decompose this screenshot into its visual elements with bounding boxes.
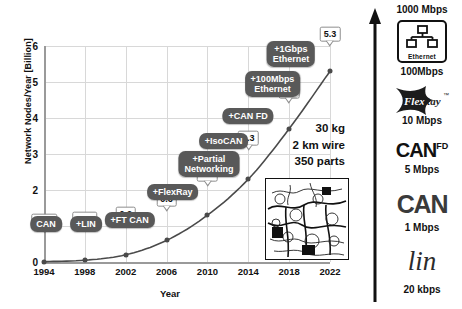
y-tick-label: 6 bbox=[32, 41, 38, 52]
value-stem-inner bbox=[327, 40, 333, 44]
value-stem-inner bbox=[164, 205, 170, 209]
y-tick-label: 2 bbox=[32, 185, 38, 196]
x-tick-label: 2022 bbox=[319, 266, 340, 277]
x-tick-label: 1994 bbox=[33, 266, 54, 277]
x-tick-label: 2014 bbox=[238, 266, 259, 277]
x-tick-label: 2006 bbox=[156, 266, 177, 277]
ethernet-glyph bbox=[405, 25, 439, 49]
stat-wire: 2 km wire bbox=[240, 137, 345, 154]
data-point bbox=[123, 252, 128, 257]
svg-text:Ray: Ray bbox=[422, 95, 441, 107]
stat-parts: 350 parts bbox=[240, 153, 345, 170]
value-stem-inner bbox=[204, 180, 210, 184]
value-stem-inner bbox=[286, 98, 292, 102]
x-tick-label: 2010 bbox=[197, 266, 218, 277]
speed-arrow-icon bbox=[368, 8, 382, 302]
x-axis bbox=[44, 262, 330, 264]
svg-text:™: ™ bbox=[443, 92, 449, 98]
y-tick-label: 4 bbox=[32, 113, 38, 124]
y-tick-label: 5 bbox=[32, 77, 38, 88]
chart-panel: Network Nodes/Year [Billion] Year 012345… bbox=[0, 0, 352, 309]
data-point bbox=[328, 69, 333, 74]
svg-text:Flex: Flex bbox=[403, 95, 425, 107]
technology-pill: +LIN bbox=[70, 216, 102, 232]
technology-pill: +FlexRay bbox=[147, 184, 199, 200]
speed-label-canfd: 5 Mbps bbox=[382, 164, 462, 175]
ethernet-logo: Ethernet bbox=[382, 20, 462, 63]
speed-label-ethernet: 100Mbps bbox=[382, 66, 462, 77]
bus-speed-panel: 1000 Mbps Ethernet 100Mbps F bbox=[358, 0, 462, 309]
x-tick-label: 1998 bbox=[74, 266, 95, 277]
data-point bbox=[164, 238, 169, 243]
y-tick-label: 3 bbox=[32, 149, 38, 160]
canfd-logo-text: CAN bbox=[396, 139, 436, 161]
flexray-glyph: Flex Ray ™ bbox=[393, 84, 451, 116]
canfd-logo-sup: FD bbox=[436, 141, 448, 151]
data-value-label: 5.3 bbox=[320, 27, 341, 41]
x-axis-label: Year bbox=[80, 288, 260, 299]
wiring-harness-image bbox=[265, 178, 349, 260]
can-logo: CAN bbox=[382, 192, 462, 217]
canfd-logo: CANFD bbox=[382, 140, 462, 160]
technology-pill: +FT CAN bbox=[105, 211, 155, 227]
data-point bbox=[246, 177, 251, 182]
speed-top-label: 1000 Mbps bbox=[382, 4, 462, 15]
speed-label-flexray: 10 Mbps bbox=[382, 115, 462, 126]
stat-weight: 30 kg bbox=[240, 120, 345, 137]
ethernet-icon: Ethernet bbox=[397, 20, 447, 63]
vehicle-stats-annotation: 30 kg 2 km wire 350 parts bbox=[240, 120, 345, 170]
speed-label-can: 1 Mbps bbox=[382, 222, 462, 233]
figure-root: Network Nodes/Year [Billion] Year 012345… bbox=[0, 0, 462, 309]
y-axis-label: Network Nodes/Year [Billion] bbox=[23, 11, 33, 191]
data-point bbox=[205, 213, 210, 218]
speed-label-lin: 20 kbps bbox=[382, 284, 462, 295]
ethernet-logo-text: Ethernet bbox=[405, 53, 439, 60]
data-point bbox=[42, 259, 47, 264]
data-value-text: 5.3 bbox=[324, 29, 337, 39]
technology-pill: +100Mbps Ethernet bbox=[245, 71, 301, 97]
technology-pill: +Partial Networking bbox=[178, 151, 239, 177]
x-tick-label: 2002 bbox=[115, 266, 136, 277]
lin-logo: lin bbox=[382, 248, 462, 275]
x-tick-label: 2018 bbox=[279, 266, 300, 277]
technology-pill: CAN bbox=[30, 216, 62, 232]
data-point bbox=[82, 258, 87, 263]
technology-pill: +1Gbps Ethernet bbox=[267, 41, 316, 67]
